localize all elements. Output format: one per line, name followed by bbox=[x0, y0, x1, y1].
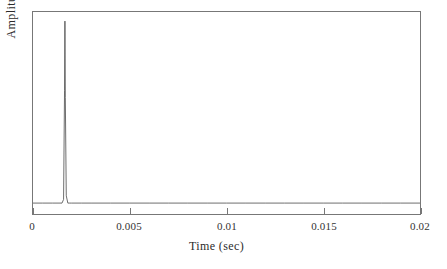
x-tick-label-1: 0.005 bbox=[116, 220, 142, 233]
signal-trace bbox=[33, 12, 420, 214]
x-tick-label-4: 0.02 bbox=[410, 220, 430, 233]
plot-area bbox=[33, 12, 420, 214]
x-tick-label-0: 0 bbox=[29, 220, 35, 233]
x-tick-mark-1 bbox=[130, 208, 131, 214]
x-tick-label-3: 0.015 bbox=[311, 220, 337, 233]
figure-canvas: 0 0.005 0.01 0.015 0.02 Time (sec) Ampli… bbox=[0, 0, 447, 269]
plot-frame bbox=[32, 11, 421, 215]
x-tick-mark-4 bbox=[421, 208, 422, 214]
x-tick-label-2: 0.01 bbox=[217, 220, 237, 233]
y-axis-label: Amplitude bbox=[4, 0, 26, 113]
x-tick-mark-3 bbox=[324, 208, 325, 214]
x-axis-label: Time (sec) bbox=[0, 239, 447, 254]
x-axis-label-text: Time (sec) bbox=[189, 239, 244, 254]
impulse-trace-path bbox=[33, 21, 420, 203]
x-tick-mark-0 bbox=[33, 208, 34, 214]
x-tick-mark-2 bbox=[227, 208, 228, 214]
